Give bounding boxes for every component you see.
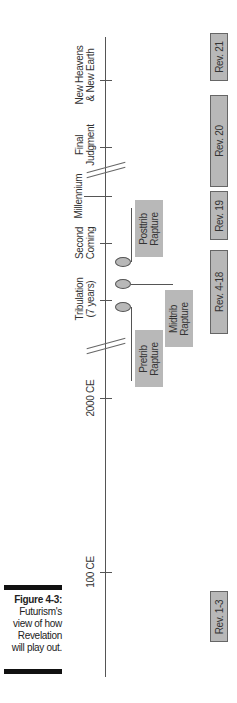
caption-line: will play out. [0, 642, 62, 654]
rapture-box-midtrib: MidtribRapture [165, 290, 193, 347]
rev-box-1-3: Rev. 1-3 [210, 591, 228, 642]
midtrib-connector [131, 284, 173, 285]
rapture-marker-pretrib [115, 302, 131, 312]
rev-box-21: Rev. 21 [210, 33, 228, 81]
tick-2000-ce [100, 398, 112, 399]
tick-100-ce [100, 572, 112, 573]
event-label-100-ce: 100 CE [85, 551, 96, 593]
tick-second-coming [100, 243, 112, 244]
pretrib-connector [131, 307, 132, 381]
tick-new-heavens [100, 80, 112, 81]
rapture-box-pretrib: PretribRapture [135, 330, 163, 387]
timeline-break-mark [87, 343, 126, 354]
caption-line: Futurism's [0, 606, 62, 618]
caption-line: Revelation [0, 630, 62, 642]
tick-final-judgment [100, 147, 112, 148]
rapture-box-posttrib: PosttribRapture [135, 200, 163, 257]
event-label-2000-ce: 2000 CE [85, 376, 96, 420]
event-label-second-coming: SecondComing [74, 218, 96, 268]
event-label-final-judgment: FinalJudgment [74, 120, 96, 170]
rev-box-19: Rev. 19 [210, 191, 228, 240]
caption-bottom-bar [4, 669, 62, 674]
caption-top-bar [4, 585, 62, 590]
figure-title: Figure 4-3: [0, 594, 62, 606]
figure-caption: Figure 4-3: Futurism's view of how Revel… [0, 594, 62, 654]
timeline-axis [105, 37, 106, 677]
event-label-millennium: Millennium [73, 167, 84, 225]
rev-box-4-18: Rev. 4-18 [210, 250, 228, 334]
caption-line: view of how [0, 618, 62, 630]
posttrib-connector [131, 208, 132, 262]
event-label-tribulation: Tribulation(7 years) [74, 272, 96, 326]
event-label-new-heavens: New Heavens& New Earth [74, 32, 96, 118]
rapture-marker-posttrib [115, 257, 131, 267]
rapture-marker-midtrib [115, 279, 131, 289]
rev-box-20: Rev. 20 [210, 95, 228, 187]
tick-millennium [84, 196, 112, 197]
tick-tribulation [100, 300, 112, 301]
